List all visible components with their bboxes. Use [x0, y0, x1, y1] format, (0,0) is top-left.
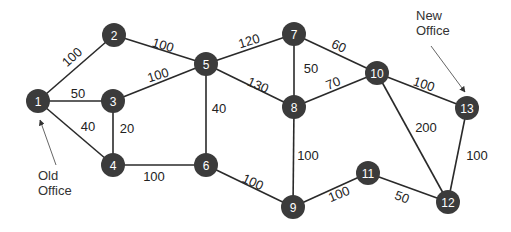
old-office-label: Office	[38, 183, 72, 198]
edge-weight-label: 100	[411, 74, 436, 95]
node-label: 3	[110, 95, 117, 109]
node-10: 10	[365, 61, 389, 85]
edge-weight-label: 70	[323, 73, 342, 92]
node-1: 1	[26, 89, 50, 113]
node-4: 4	[101, 153, 125, 177]
node-label: 5	[203, 58, 210, 72]
node-label: 10	[370, 67, 384, 81]
node-label: 9	[290, 201, 297, 215]
edge-weight-label: 200	[415, 120, 437, 135]
edge-weight-label: 130	[245, 74, 271, 97]
node-label: 2	[111, 29, 118, 43]
node-11: 11	[356, 161, 380, 185]
edge-10-12	[377, 73, 448, 202]
old-office-label: Old	[38, 168, 58, 183]
edge-weight-label: 100	[240, 171, 266, 194]
network-graph: 12345678910111213 1005040201001001004012…	[0, 0, 511, 232]
edge-weight-label: 50	[71, 86, 85, 101]
node-12: 12	[436, 190, 460, 214]
edge-1-4	[38, 101, 113, 165]
node-label: 7	[291, 28, 298, 42]
node-label: 8	[291, 101, 298, 115]
node-label: 11	[362, 167, 375, 181]
node-3: 3	[101, 89, 125, 113]
node-8: 8	[282, 95, 306, 119]
edge-weight-label: 100	[150, 35, 175, 56]
edge-weight-label: 50	[304, 61, 318, 76]
node-7: 7	[282, 22, 306, 46]
edge-weight-label: 120	[236, 31, 261, 52]
edge-weight-label: 100	[466, 148, 488, 163]
edge-13-12	[448, 108, 467, 202]
node-label: 12	[441, 196, 455, 210]
edge-weight-label: 100	[143, 169, 165, 184]
edge-weight-label: 60	[329, 36, 348, 56]
edge-weight-label: 100	[59, 44, 85, 70]
arrow-icon	[431, 46, 465, 92]
edge-weights: 1005040201001001004012013050607010010010…	[59, 31, 488, 207]
edge-weight-label: 100	[145, 65, 170, 86]
edge-8-9	[293, 107, 294, 207]
node-label: 4	[110, 159, 117, 173]
node-5: 5	[194, 52, 218, 76]
node-2: 2	[102, 23, 126, 47]
arrow-icon	[40, 120, 56, 165]
edge-weight-label: 20	[120, 121, 134, 136]
edge-weight-label: 40	[81, 119, 95, 134]
node-13: 13	[455, 96, 479, 120]
new-office-label: New	[416, 8, 443, 23]
new-office-label: Office	[416, 23, 450, 38]
edge-weight-label: 50	[393, 187, 412, 206]
node-6: 6	[194, 153, 218, 177]
node-label: 13	[460, 102, 474, 116]
edge-weight-label: 40	[212, 101, 226, 116]
node-label: 6	[203, 159, 210, 173]
edge-weight-label: 100	[297, 148, 319, 163]
edge-weight-label: 100	[326, 183, 352, 205]
node-label: 1	[35, 95, 42, 109]
node-9: 9	[281, 195, 305, 219]
